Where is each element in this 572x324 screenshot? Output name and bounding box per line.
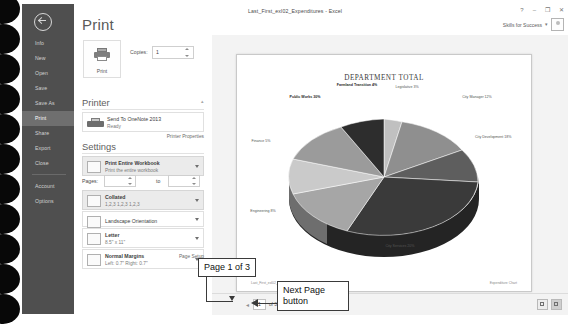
close-icon[interactable]: ✕ — [559, 6, 564, 14]
sheet-footer-right: Expenditure Chart — [490, 281, 517, 285]
binding-hole — [0, 0, 20, 24]
chevron-down-icon[interactable] — [195, 237, 199, 240]
sidebar-item-share[interactable]: Share — [22, 126, 74, 141]
pages-to-input[interactable] — [168, 175, 200, 187]
binding-hole — [0, 264, 20, 294]
callout-arrow-1 — [229, 296, 235, 301]
binding-hole — [0, 204, 20, 234]
setting-collation-title: Collated — [105, 194, 125, 200]
print-button-label: Print — [84, 68, 120, 74]
printer-status: Ready — [107, 124, 121, 129]
binding-hole — [0, 174, 20, 204]
sidebar-item-close[interactable]: Close — [22, 156, 74, 171]
pages-from-spinner[interactable] — [128, 177, 133, 185]
pie-chart: Legislative 3% City Manager 12% City Dev… — [237, 81, 531, 271]
preview-status-bar: ◄ 1 of 3 ► — [212, 293, 568, 315]
user-avatar-icon[interactable] — [551, 18, 564, 31]
pages-from-input[interactable] — [104, 175, 136, 187]
printer-section-rule — [82, 109, 204, 110]
binding-hole — [0, 294, 20, 324]
print-button[interactable]: Print — [83, 40, 121, 78]
binding-hole — [0, 84, 20, 114]
pie-label-finance: Finance 5% — [237, 139, 285, 143]
setting-orientation[interactable]: Landscape Orientation — [82, 211, 204, 227]
pages-to-spinner[interactable] — [192, 177, 197, 185]
settings-section-heading: Settings — [82, 141, 116, 152]
printer-device-icon — [87, 118, 104, 128]
callout-leader-line-1b — [206, 301, 233, 302]
orientation-icon — [87, 216, 101, 228]
setting-paper-size[interactable]: Letter 8.5" x 11" — [82, 228, 204, 248]
printer-selector[interactable]: Send To OneNote 2013 Ready — [82, 112, 204, 132]
binding-hole — [0, 234, 20, 264]
title-bar: Last_First_exl02_Expenditures - Excel ? … — [212, 4, 568, 36]
minimize-icon[interactable]: – — [533, 6, 536, 14]
print-preview-pane: DEPARTMENT TOTAL — [212, 35, 568, 314]
sidebar-item-new[interactable]: New — [22, 51, 74, 66]
setting-print-area-title: Print Entire Workbook — [105, 160, 160, 166]
setting-print-area[interactable]: Print Entire Workbook Print the entire w… — [82, 156, 204, 176]
setting-orientation-title: Landscape Orientation — [105, 218, 157, 224]
backstage-nav: InfoNewOpenSaveSave AsPrintShareExportCl… — [22, 4, 74, 314]
pie-label-city-development: City Development 18% — [475, 135, 535, 139]
back-arrow-icon[interactable] — [34, 13, 52, 31]
zoom-to-page-icon[interactable] — [551, 299, 562, 310]
printer-name: Send To OneNote 2013 — [107, 116, 161, 122]
excel-backstage-window: Last_First_exl02_Expenditures - Excel ? … — [22, 4, 568, 314]
callout-leader-line-1 — [206, 276, 207, 302]
setting-margins-subtitle: Left: 0.7" Right: 0.7" — [105, 261, 148, 266]
sidebar-item-options[interactable]: Options — [22, 194, 74, 209]
sheet-icon — [87, 161, 101, 173]
copies-label: Copies: — [130, 49, 148, 55]
settings-section-rule — [82, 153, 204, 154]
printer-icon — [93, 48, 111, 61]
copies-stepper[interactable]: 1 — [152, 46, 194, 59]
chevron-down-icon[interactable] — [195, 165, 199, 168]
sidebar-item-save[interactable]: Save — [22, 81, 74, 96]
printer-properties-link[interactable]: Printer Properties — [167, 134, 204, 139]
help-icon[interactable]: ? — [520, 6, 523, 14]
setting-paper-size-subtitle: 8.5" x 11" — [105, 240, 125, 245]
callout-arrow-2 — [251, 299, 258, 307]
page-indicator-callout-text: Page 1 of 3 — [199, 259, 255, 276]
binding-hole — [0, 54, 20, 84]
sidebar-item-print[interactable]: Print — [22, 111, 74, 126]
pie-label-city-manager: City Manager 12% — [449, 95, 505, 99]
account-area[interactable]: Skills for Success ▾ — [503, 18, 564, 31]
chevron-down-icon[interactable] — [195, 218, 199, 221]
preview-sheet: DEPARTMENT TOTAL — [236, 54, 532, 292]
sidebar-item-save-as[interactable]: Save As — [22, 96, 74, 111]
prev-page-icon[interactable]: ◄ — [245, 302, 250, 308]
paper-icon — [87, 233, 101, 245]
copies-value: 1 — [156, 49, 159, 55]
chevron-down-icon[interactable] — [195, 199, 199, 202]
chevron-down-icon[interactable]: ▾ — [545, 22, 548, 27]
collapse-icon[interactable]: ▴ — [201, 98, 204, 104]
page-indicator-callout: Page 1 of 3 — [198, 258, 256, 277]
pie-chart-svg — [237, 81, 531, 271]
sidebar-item-open[interactable]: Open — [22, 66, 74, 81]
setting-margins[interactable]: Normal Margins Left: 0.7" Right: 0.7" — [82, 249, 204, 269]
margins-icon — [87, 254, 101, 266]
document-title: Last_First_exl02_Expenditures - Excel — [248, 8, 342, 14]
binding-hole — [0, 24, 20, 54]
pie-label-engineering: Engineering 8% — [235, 209, 291, 213]
setting-collation[interactable]: Collated 1,2,3 1,2,3 1,2,3 — [82, 190, 204, 210]
preview-zoom-controls — [537, 299, 562, 310]
show-margins-icon[interactable] — [537, 299, 548, 310]
window-controls: ? – ❐ ✕ — [520, 6, 564, 14]
sidebar-item-info[interactable]: Info — [22, 36, 74, 51]
setting-margins-title: Normal Margins — [105, 253, 144, 259]
pie-label-public-works: Public Works 30% — [277, 95, 333, 99]
binding-hole — [0, 114, 20, 144]
restore-icon[interactable]: ❐ — [545, 6, 550, 14]
page-title: Print — [82, 16, 114, 33]
collate-icon — [87, 195, 101, 207]
pages-to-label: to — [156, 178, 160, 184]
sidebar-item-export[interactable]: Export — [22, 141, 74, 156]
copies-spinner[interactable] — [185, 48, 191, 57]
setting-print-area-subtitle: Print the entire workbook — [105, 168, 158, 173]
printer-section-heading: Printer — [82, 97, 110, 108]
next-page-button-callout-text: Next Page button — [278, 282, 348, 310]
sidebar-item-account[interactable]: Account — [22, 179, 74, 194]
